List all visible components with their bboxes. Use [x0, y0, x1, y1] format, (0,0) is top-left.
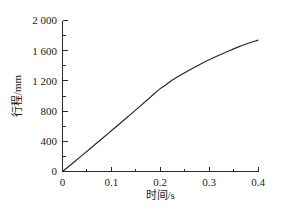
y-tick-label: 0: [52, 165, 58, 177]
x-tick-label: 0.2: [153, 176, 167, 188]
x-axis-title: 时间/s: [146, 189, 175, 201]
y-tick-label: 400: [41, 135, 58, 147]
y-tick-label: 2 000: [32, 14, 57, 26]
line-chart: 0 400 800 1 200 1 600 2 000 0 0.1 0.2 0.…: [0, 0, 282, 215]
x-tick-label: 0.4: [251, 176, 265, 188]
y-tick-label: 800: [41, 105, 58, 117]
x-tick-label: 0.1: [104, 176, 118, 188]
y-axis-title: 行程/mm: [11, 74, 23, 117]
y-tick-label: 1 600: [32, 45, 57, 57]
x-tick-label: 0.3: [202, 176, 216, 188]
chart-figure: 0 400 800 1 200 1 600 2 000 0 0.1 0.2 0.…: [0, 0, 282, 215]
y-tick-label: 1 200: [32, 75, 57, 87]
x-tick-label: 0: [60, 176, 66, 188]
